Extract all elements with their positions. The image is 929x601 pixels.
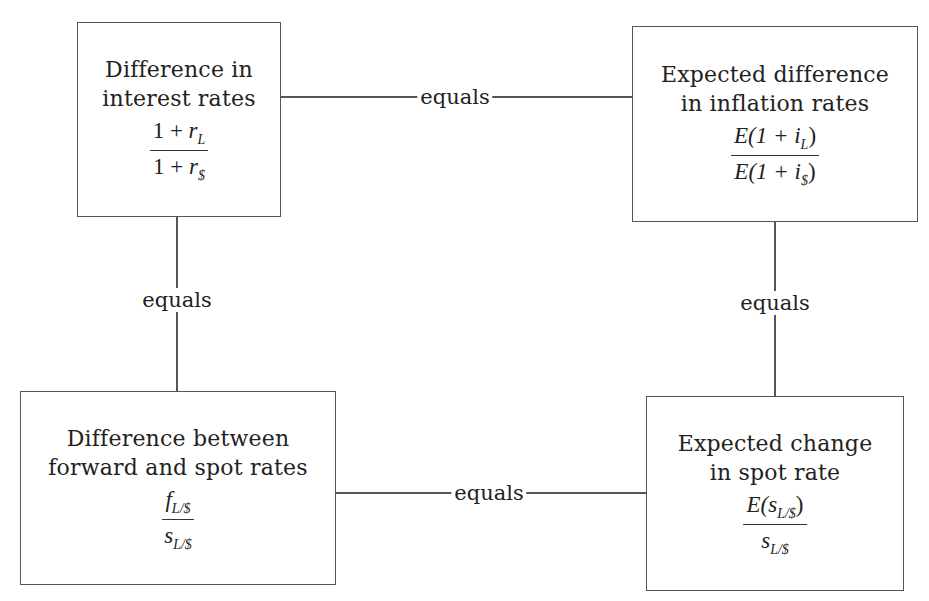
denominator-subscript: $: [801, 173, 808, 188]
box-title-line1: Expected difference: [661, 60, 889, 89]
box-title-line2: in inflation rates: [681, 89, 869, 118]
denominator-variable: s: [761, 528, 770, 553]
box-interest-rate-difference: Difference in interest rates 1 + rL 1 + …: [77, 22, 281, 217]
numerator-subscript: L/$: [172, 501, 191, 516]
numerator-subscript: L/$: [777, 506, 796, 521]
connector-top-label: equals: [417, 85, 492, 109]
numerator-prefix: E(1 +: [734, 123, 794, 148]
denominator-subscript: $: [198, 168, 205, 183]
numerator-prefix: E(: [746, 492, 768, 517]
numerator-subscript: L: [801, 137, 809, 152]
numerator-variable: i: [794, 123, 800, 148]
formula-fraction: fL/$ sL/$: [161, 486, 195, 553]
denominator-subscript: L/$: [770, 542, 789, 557]
fraction-denominator: 1 + r$: [150, 151, 208, 184]
box-inflation-rate-difference: Expected difference in inflation rates E…: [632, 26, 918, 222]
connector-left-label: equals: [139, 288, 214, 312]
fraction-numerator: fL/$: [162, 486, 193, 520]
numerator-variable: r: [189, 118, 198, 143]
formula-fraction: E(1 + iL) E(1 + i$): [731, 122, 819, 189]
denominator-subscript: L/$: [173, 537, 192, 552]
denominator-prefix: 1 +: [153, 154, 189, 179]
box-title-line2: forward and spot rates: [48, 453, 307, 482]
fraction-denominator: sL/$: [161, 520, 195, 553]
box-title-line2: in spot rate: [710, 458, 841, 487]
box-expected-spot-change: Expected change in spot rate E(sL/$) sL/…: [646, 396, 904, 591]
formula-fraction: E(sL/$) sL/$: [743, 491, 806, 558]
box-title-line1: Difference in: [105, 55, 253, 84]
formula-fraction: 1 + rL 1 + r$: [150, 117, 209, 184]
fraction-denominator: sL/$: [758, 525, 792, 558]
denominator-variable: i: [795, 159, 801, 184]
fraction-numerator: E(1 + iL): [731, 122, 819, 156]
connector-bottom-label: equals: [451, 481, 526, 505]
numerator-suffix: ): [796, 492, 804, 517]
box-title-line2: interest rates: [102, 84, 255, 113]
numerator-subscript: L: [198, 132, 206, 147]
connector-right-label: equals: [737, 291, 812, 315]
numerator-variable: s: [768, 492, 777, 517]
fraction-denominator: E(1 + i$): [731, 156, 818, 189]
fraction-numerator: 1 + rL: [150, 117, 209, 151]
denominator-variable: r: [189, 154, 198, 179]
numerator-prefix: 1 +: [153, 118, 189, 143]
box-forward-spot-difference: Difference between forward and spot rate…: [20, 391, 336, 585]
denominator-variable: s: [164, 523, 173, 548]
denominator-suffix: ): [808, 159, 816, 184]
fraction-numerator: E(sL/$): [743, 491, 806, 525]
denominator-prefix: E(1 +: [734, 159, 794, 184]
box-title-line1: Difference between: [67, 424, 290, 453]
numerator-suffix: ): [808, 123, 816, 148]
numerator-variable: f: [165, 487, 171, 512]
box-title-line1: Expected change: [678, 429, 873, 458]
